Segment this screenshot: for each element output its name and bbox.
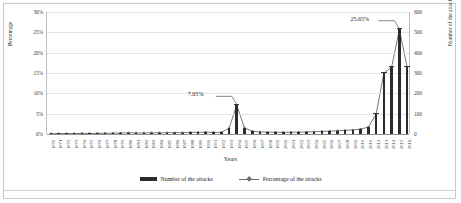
- right-axis-tick-label: 100: [414, 111, 448, 117]
- bar: [251, 131, 254, 134]
- bar-cap: [397, 28, 402, 29]
- bar: [81, 133, 84, 134]
- bar: [290, 132, 293, 134]
- bar-cap: [404, 66, 409, 67]
- x-axis-title: Years: [0, 156, 461, 162]
- x-axis-tick-label: 2002: [300, 140, 305, 149]
- x-axis-tick-label: 2016: [408, 140, 413, 149]
- x-axis-tick-label: 1993: [230, 140, 235, 149]
- bar: [383, 73, 386, 134]
- x-axis-tick-label: 1989: [199, 140, 204, 149]
- bar: [173, 133, 176, 134]
- x-axis-tick-label: 1991: [214, 140, 219, 149]
- right-axis-tick-label: 200: [414, 90, 448, 96]
- left-axis-tick-label: 20%: [3, 50, 43, 56]
- bar: [212, 132, 215, 134]
- legend-item-bars: Number of the attacks: [140, 176, 213, 182]
- bar: [88, 133, 91, 134]
- bar: [321, 131, 324, 134]
- bar: [406, 67, 409, 134]
- bar: [344, 130, 347, 134]
- bar: [189, 132, 192, 134]
- x-axis-tick-label: 1988: [191, 140, 196, 149]
- bar: [352, 130, 355, 134]
- bar: [135, 133, 138, 134]
- x-axis-tick-label: 2003: [307, 140, 312, 149]
- right-axis-tick-label: 0: [414, 131, 448, 137]
- bar: [204, 132, 207, 134]
- x-axis-tick-label: 1977: [106, 140, 111, 149]
- x-axis-tick-label: 2008: [346, 140, 351, 149]
- bar: [328, 131, 331, 134]
- x-axis-tick-label: 2015: [400, 140, 405, 149]
- x-axis-tick-label: 1992: [222, 140, 227, 149]
- axis-baseline: [47, 134, 409, 135]
- x-axis-tick-label: 2000: [284, 140, 289, 149]
- x-axis-ticks: 1970197119721973197419751976197719781979…: [46, 136, 410, 156]
- bar: [65, 133, 68, 134]
- legend-label-bars: Number of the attacks: [161, 176, 213, 182]
- x-axis-tick-label: 1970: [52, 140, 57, 149]
- bar: [197, 132, 200, 134]
- x-axis-tick-label: 1996: [253, 140, 258, 149]
- right-axis-tick-label: 400: [414, 50, 448, 56]
- x-axis-tick-label: 1985: [168, 140, 173, 149]
- x-axis-tick-label: 2005: [323, 140, 328, 149]
- bar: [359, 129, 362, 134]
- x-axis-tick-label: 1972: [67, 140, 72, 149]
- x-axis-tick-label: 1982: [145, 140, 150, 149]
- legend-line-swatch: [239, 177, 259, 182]
- left-axis-tick-label: 5%: [3, 111, 43, 117]
- bar: [297, 132, 300, 134]
- x-axis-tick-label: 1998: [269, 140, 274, 149]
- x-axis-tick-label: 2004: [315, 140, 320, 149]
- x-axis-tick-label: 2014: [392, 140, 397, 149]
- x-axis-tick-label: 2012: [377, 140, 382, 149]
- x-axis-tick-label: 2001: [292, 140, 297, 149]
- left-axis-tick-label: 0%: [3, 131, 43, 137]
- x-axis-tick-label: 1980: [129, 140, 134, 149]
- x-axis-tick-label: 1997: [261, 140, 266, 149]
- bar-cap: [373, 113, 378, 114]
- bar: [57, 133, 60, 134]
- bar-cap: [389, 66, 394, 67]
- plot-area: [46, 12, 410, 134]
- x-axis-tick-label: 2010: [361, 140, 366, 149]
- right-axis-tick-label: 500: [414, 29, 448, 35]
- bar: [166, 133, 169, 134]
- gridline: [47, 73, 409, 74]
- bar: [390, 67, 393, 134]
- chart-legend: Number of the attacks Percentage of the …: [0, 176, 461, 182]
- x-axis-tick-label: 1999: [276, 140, 281, 149]
- bar: [398, 29, 401, 134]
- x-axis-tick-label: 1986: [176, 140, 181, 149]
- bar: [73, 133, 76, 134]
- bar: [220, 132, 223, 134]
- x-axis-tick-label: 1995: [245, 140, 250, 149]
- bar: [266, 132, 269, 134]
- bar: [127, 133, 130, 134]
- left-axis-tick-label: 15%: [3, 70, 43, 76]
- data-label: 7.05%: [188, 91, 204, 97]
- x-axis-tick-label: 2009: [354, 140, 359, 149]
- bar-cap: [381, 72, 386, 73]
- gridline: [47, 53, 409, 54]
- line-series-path: [51, 30, 407, 134]
- right-axis-tick-label: 600: [414, 9, 448, 15]
- bar: [158, 133, 161, 134]
- gridline: [47, 12, 409, 13]
- x-axis-tick-label: 1973: [75, 140, 80, 149]
- bar: [112, 133, 115, 134]
- left-axis-tick-label: 25%: [3, 29, 43, 35]
- right-axis-tick-label: 300: [414, 70, 448, 76]
- legend-label-line: Percentage of the attacks: [263, 176, 322, 182]
- bar: [104, 133, 107, 134]
- legend-item-line: Percentage of the attacks: [239, 176, 322, 182]
- x-axis-tick-label: 1983: [152, 140, 157, 149]
- bar: [143, 133, 146, 134]
- bar: [336, 131, 339, 134]
- x-axis-tick-label: 2011: [369, 140, 374, 149]
- x-axis-tick-label: 1994: [238, 140, 243, 149]
- bar: [313, 132, 316, 134]
- left-axis-tick-label: 30%: [3, 9, 43, 15]
